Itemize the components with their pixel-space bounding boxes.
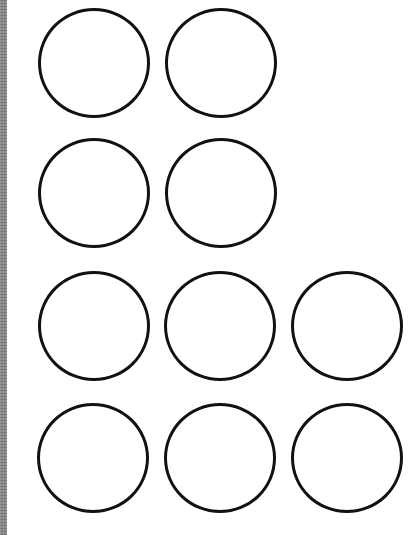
- circle-outline-icon: [164, 271, 276, 381]
- circle-outline-icon: [37, 403, 149, 513]
- circle-outline-icon: [165, 138, 277, 248]
- circle-outline-icon: [164, 403, 276, 513]
- circle-outline-icon: [38, 138, 150, 248]
- circle-outline-icon: [291, 271, 403, 381]
- circle-outline-icon: [165, 8, 277, 118]
- circle-outline-icon: [38, 8, 150, 118]
- circle-outline-icon: [38, 271, 150, 381]
- circle-worksheet: [0, 0, 412, 535]
- circle-outline-icon: [291, 403, 403, 513]
